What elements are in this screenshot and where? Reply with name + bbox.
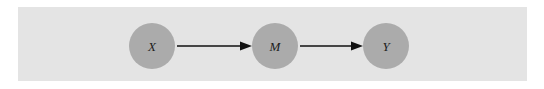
edge-m-to-y	[300, 42, 363, 51]
path-diagram: X M Y	[0, 0, 544, 89]
edge-x-to-m-arrowhead	[240, 42, 252, 51]
edge-m-to-y-arrowhead	[351, 42, 363, 51]
figure-canvas: X M Y	[0, 0, 544, 89]
node-x: X	[129, 23, 175, 69]
edge-x-to-m	[177, 42, 252, 51]
node-y: Y	[363, 23, 409, 69]
node-m: M	[252, 23, 298, 69]
node-x-label: X	[147, 39, 157, 54]
node-m-label: M	[269, 39, 282, 54]
